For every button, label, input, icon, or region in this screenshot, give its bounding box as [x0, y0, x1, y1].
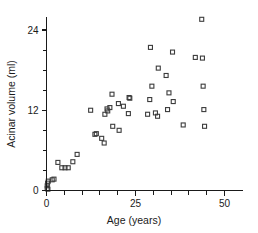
x-tick-label: 25: [130, 198, 142, 209]
data-point: [148, 45, 152, 49]
x-tick-label: 0: [44, 198, 50, 209]
data-point: [56, 160, 60, 164]
data-point: [71, 160, 75, 164]
data-point: [121, 104, 125, 108]
data-point: [200, 56, 204, 60]
data-point: [203, 124, 207, 128]
data-point: [102, 141, 106, 145]
axes-layer: [47, 17, 244, 191]
data-point: [75, 152, 79, 156]
data-point: [117, 128, 121, 132]
data-point: [171, 50, 175, 54]
x-tick-label: 50: [219, 198, 231, 209]
y-axis-tick-labels: 01224: [27, 25, 39, 197]
data-point: [89, 108, 93, 112]
y-tick-label: 0: [33, 185, 39, 196]
data-point: [116, 102, 120, 106]
x-axis-ticks: [47, 191, 225, 196]
data-point: [126, 112, 130, 116]
data-point: [171, 100, 175, 104]
data-point: [193, 55, 197, 59]
x-axis-tick-labels: 02550: [44, 198, 231, 209]
data-point: [156, 66, 160, 70]
y-axis-ticks: [42, 30, 47, 191]
data-point: [146, 112, 150, 116]
y-tick-label: 12: [27, 105, 39, 116]
data-point: [166, 108, 170, 112]
data-point: [202, 108, 206, 112]
scatter-plot-figure: 02550 01224 Age (years) Acinar volume (m…: [0, 0, 258, 233]
data-point: [181, 123, 185, 127]
data-point: [111, 124, 115, 128]
plot-canvas: 02550 01224 Age (years) Acinar volume (m…: [0, 0, 258, 233]
x-axis-title: Age (years): [107, 214, 161, 226]
data-point: [200, 17, 204, 21]
data-point: [164, 73, 168, 77]
data-point: [100, 136, 104, 140]
y-tick-label: 24: [27, 25, 39, 36]
data-point: [148, 98, 152, 102]
data-point: [110, 92, 114, 96]
y-axis-title: Acinar volume (ml): [5, 60, 17, 148]
data-point: [167, 91, 171, 95]
data-point: [150, 84, 154, 88]
data-point: [201, 84, 205, 88]
data-points-layer: [45, 17, 206, 191]
